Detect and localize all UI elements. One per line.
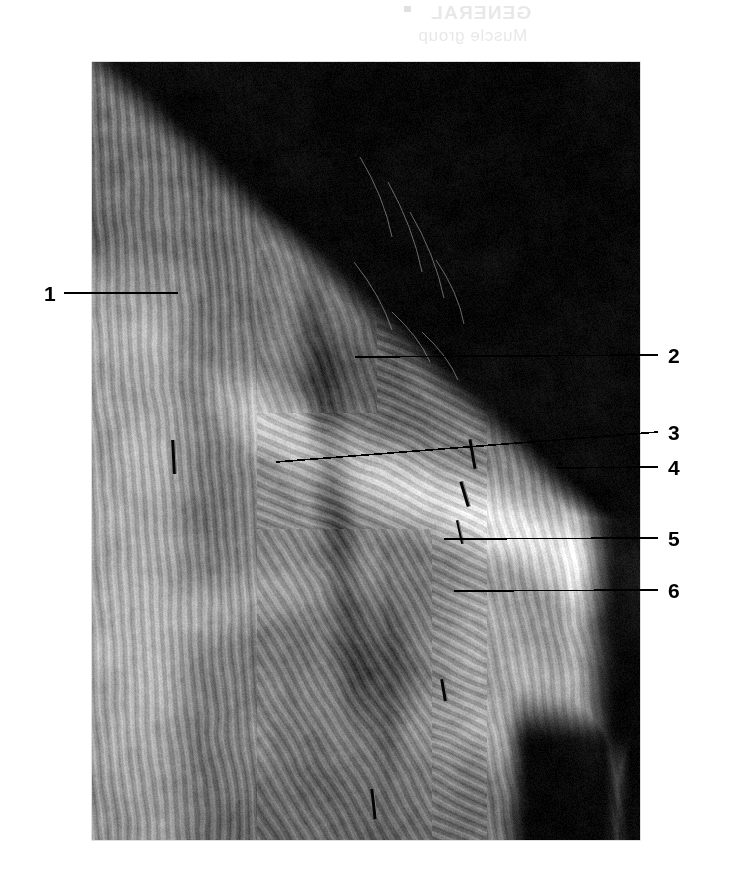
label-number-3: 3 (668, 422, 680, 443)
label-number-2: 2 (668, 345, 680, 366)
dissection-photograph (92, 62, 640, 840)
page-root: GENERAL Muscle group 123456 (0, 0, 730, 874)
label-number-1: 1 (44, 283, 56, 304)
bleed-marker (404, 6, 411, 12)
label-number-4: 4 (668, 457, 680, 478)
label-number-5: 5 (668, 528, 680, 549)
photograph-canvas (92, 62, 640, 840)
bleed-subtitle-text: Muscle group (418, 26, 527, 46)
label-number-6: 6 (668, 580, 680, 601)
bleed-title-text: GENERAL (430, 2, 531, 24)
